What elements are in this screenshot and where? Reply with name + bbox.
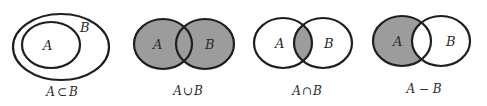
caption-union: A∪B bbox=[172, 84, 203, 98]
set-a-label: A bbox=[274, 36, 284, 51]
set-b-label: B bbox=[445, 34, 456, 49]
venn-intersection: A B A∩B bbox=[254, 18, 352, 98]
venn-subset: A B A⊂B bbox=[13, 14, 109, 99]
set-b-label: B bbox=[79, 20, 90, 35]
set-a-label: A bbox=[42, 38, 52, 53]
set-b-label: B bbox=[204, 37, 215, 52]
caption-difference: A − B bbox=[405, 82, 441, 96]
set-a-label: A bbox=[152, 37, 162, 52]
venn-difference: A B A − B bbox=[373, 16, 470, 96]
caption-subset: A⊂B bbox=[45, 85, 78, 99]
venn-diagrams-figure: A B A⊂B A B A∪B A B A∩B A B A − B bbox=[0, 0, 487, 106]
venn-union: A B A∪B bbox=[134, 19, 234, 98]
set-a-label: A bbox=[392, 34, 402, 49]
caption-intersection: A∩B bbox=[291, 84, 322, 98]
set-b-label: B bbox=[323, 36, 334, 51]
